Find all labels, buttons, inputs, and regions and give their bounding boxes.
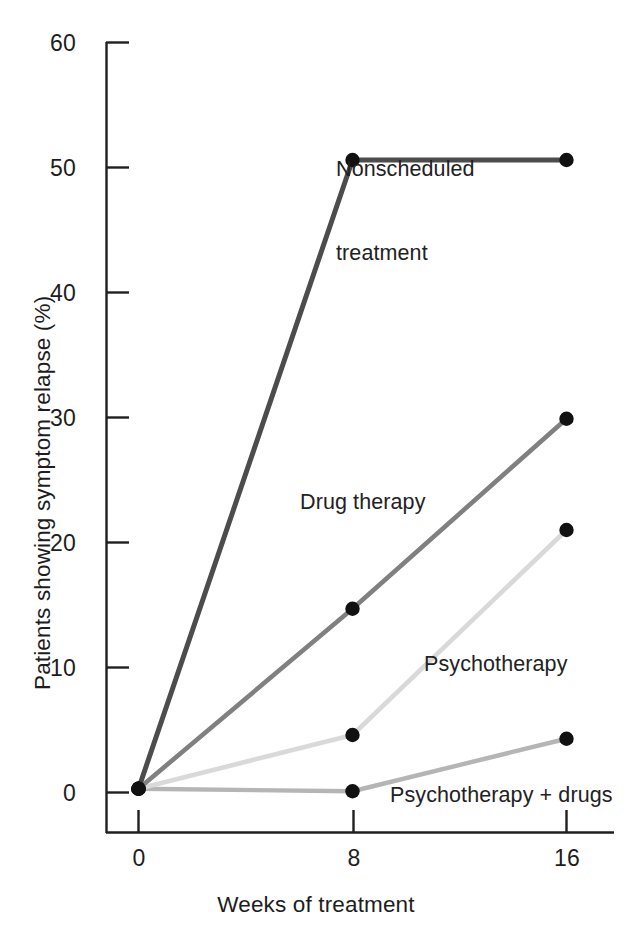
y-tick-label-60: 60: [16, 30, 76, 57]
data-point-marker: [345, 728, 359, 742]
y-tick-label-0: 0: [16, 780, 76, 807]
relapse-line-chart: 60 50 40 30 20 10 0 0 8 16 Patients show…: [0, 0, 632, 934]
x-tick-label-16: 16: [537, 845, 597, 872]
series-label-nonscheduled-line2: treatment: [336, 240, 475, 268]
series-label-psychotherapy: Psychotherapy: [424, 652, 568, 677]
x-tick-label-0: 0: [109, 845, 169, 872]
x-axis-title: Weeks of treatment: [0, 892, 632, 919]
series-label-drug-therapy: Drug therapy: [300, 490, 426, 515]
y-axis-title: Patients showing symptom relapse (%): [30, 296, 57, 690]
data-point-marker: [345, 602, 359, 616]
data-point-marker: [559, 523, 573, 537]
series-label-nonscheduled-treatment: Nonscheduled treatment: [336, 100, 475, 324]
data-point-marker: [345, 784, 359, 798]
series-label-nonscheduled-line1: Nonscheduled: [336, 156, 475, 184]
x-tick-label-8: 8: [324, 845, 384, 872]
y-tick-label-50: 50: [16, 155, 76, 182]
x-axis-ticks: [139, 810, 567, 833]
y-axis-ticks: [106, 43, 129, 793]
series-label-psychotherapy-drugs: Psychotherapy + drugs: [390, 783, 613, 808]
data-point-marker: [559, 412, 573, 426]
data-point-marker: [559, 153, 573, 167]
data-point-marker: [131, 782, 145, 796]
data-point-marker: [559, 732, 573, 746]
